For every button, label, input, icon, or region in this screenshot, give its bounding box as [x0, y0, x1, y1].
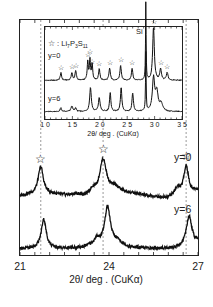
- inset-label-y6: y=6: [48, 94, 60, 103]
- svg-text:2 5: 2 5: [122, 121, 132, 128]
- svg-text:☆: ☆: [158, 59, 164, 66]
- main-x-tick-labels: 212427: [14, 260, 204, 272]
- svg-text:☆: ☆: [129, 59, 135, 66]
- svg-text:☆: ☆: [164, 63, 170, 70]
- svg-text:1 0: 1 0: [40, 121, 50, 128]
- svg-text:2 0: 2 0: [95, 121, 105, 128]
- inset-label-y0: y=0: [48, 51, 60, 60]
- svg-text:☆: ☆: [58, 64, 64, 71]
- svg-text:☆: ☆: [35, 152, 46, 166]
- svg-text:☆: ☆: [89, 58, 95, 65]
- svg-text:☆: ☆: [118, 56, 124, 63]
- svg-text:☆: ☆: [107, 59, 113, 66]
- svg-text:3 5: 3 5: [177, 121, 187, 128]
- svg-text:1 5: 1 5: [68, 121, 78, 128]
- svg-text:☆: ☆: [87, 48, 93, 55]
- svg-text:☆: ☆: [151, 18, 157, 25]
- inset-x-tick-labels: 1 01 52 02 53 03 5: [40, 121, 187, 128]
- main-label-y6: y=6: [174, 203, 191, 215]
- svg-text:☆: ☆: [98, 142, 109, 156]
- svg-text:24: 24: [103, 260, 115, 272]
- svg-text:☆: ☆: [73, 62, 79, 69]
- xrd-figure: ☆☆☆ y=0 y=6 212427 2θ/ deg . (CuKα) ☆☆☆☆…: [0, 0, 213, 307]
- inset-x-axis-label: 2θ/ deg . (CuKα): [87, 130, 139, 138]
- svg-text:☆: ☆: [96, 60, 102, 67]
- svg-text:3 0: 3 0: [150, 121, 160, 128]
- main-label-y0: y=0: [174, 151, 191, 163]
- main-peak-star-markers: ☆☆☆: [34, 142, 193, 166]
- main-x-axis-label: 2θ/ deg . (CuKα): [69, 274, 143, 285]
- svg-text:27: 27: [192, 260, 204, 272]
- main-trace-y6: [20, 205, 198, 250]
- svg-text:21: 21: [14, 260, 26, 272]
- inset-si-label: Si: [136, 27, 143, 36]
